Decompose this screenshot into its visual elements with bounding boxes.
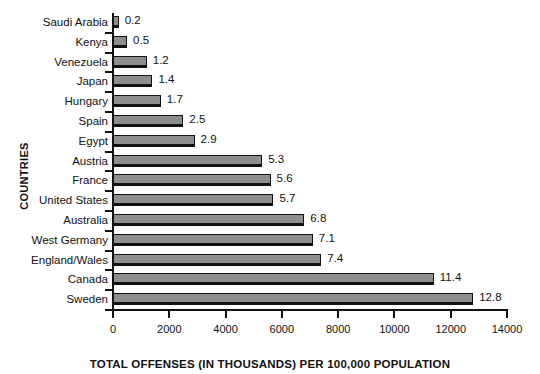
y-axis-tick [105, 151, 113, 153]
bar-value-label: 5.6 [277, 172, 293, 184]
y-axis-tick [105, 131, 113, 133]
bar-value-label: 1.2 [153, 54, 169, 66]
x-axis-title: TOTAL OFFENSES (IN THOUSANDS) PER 100,00… [0, 358, 540, 370]
x-axis-tick [168, 310, 170, 318]
category-label: Canada [68, 270, 108, 290]
y-axis-tick [105, 71, 113, 73]
bar-row: 0.2 [113, 13, 507, 33]
y-axis-tick [105, 230, 113, 232]
bar-value-label: 2.5 [189, 113, 205, 125]
category-label: Sweden [66, 290, 108, 310]
category-label: France [72, 171, 108, 191]
plot-area: 0.20.51.21.41.72.52.95.35.65.76.87.17.41… [113, 13, 507, 310]
category-label: Australia [63, 211, 108, 231]
bar [113, 214, 304, 226]
bar [113, 155, 262, 167]
bar-value-label: 1.7 [167, 93, 183, 105]
y-axis-tick [105, 52, 113, 54]
x-axis-tick [112, 310, 114, 318]
bar [113, 273, 434, 285]
bar [113, 56, 147, 68]
y-axis-tick [105, 289, 113, 291]
x-axis-tick [393, 310, 395, 318]
bar [113, 36, 127, 48]
bar-value-label: 5.7 [279, 192, 295, 204]
bar [113, 95, 161, 107]
bar-row: 7.1 [113, 231, 507, 251]
bar-row: 2.9 [113, 132, 507, 152]
category-label: Spain [79, 112, 108, 132]
x-axis-tick [337, 310, 339, 318]
category-label: Saudi Arabia [43, 13, 108, 33]
x-axis-tick [225, 310, 227, 318]
bar [113, 16, 119, 28]
bar-row: 5.6 [113, 171, 507, 191]
x-axis-tick-label: 6000 [270, 323, 294, 335]
bar-value-label: 7.1 [319, 232, 335, 244]
bar-row: 5.7 [113, 191, 507, 211]
bar-row: 5.3 [113, 152, 507, 172]
x-axis-tick [506, 310, 508, 318]
bar [113, 234, 313, 246]
bar-row: 7.4 [113, 251, 507, 271]
x-axis-tick-label: 12000 [435, 323, 466, 335]
bar-value-label: 11.4 [440, 271, 462, 283]
bar-row: 0.5 [113, 33, 507, 53]
x-axis-tick-label: 14000 [492, 323, 523, 335]
category-label: West Germany [32, 231, 108, 251]
x-axis-tick-label: 10000 [379, 323, 410, 335]
bar [113, 194, 273, 206]
bar-value-label: 1.4 [158, 73, 174, 85]
bar [113, 115, 183, 127]
y-axis-tick [105, 210, 113, 212]
x-axis-tick [281, 310, 283, 318]
bar [113, 254, 321, 266]
bar-value-label: 2.9 [201, 133, 217, 145]
bar [113, 174, 271, 186]
bar-row: 1.2 [113, 53, 507, 73]
bar-value-label: 5.3 [268, 153, 284, 165]
category-label: England/Wales [31, 251, 108, 271]
category-label: Austria [72, 152, 108, 172]
category-label: Kenya [75, 33, 108, 53]
bar-row: 6.8 [113, 211, 507, 231]
bar [113, 135, 195, 147]
bar-chart: COUNTRIES Saudi ArabiaKenyaVenezuelaJapa… [0, 0, 540, 374]
bar [113, 293, 473, 305]
x-axis-tick [450, 310, 452, 318]
bar-row: 12.8 [113, 290, 507, 310]
y-axis-tick [105, 170, 113, 172]
bar-value-label: 7.4 [327, 252, 343, 264]
bar-row: 11.4 [113, 270, 507, 290]
x-axis-tick-label: 4000 [213, 323, 237, 335]
bar-value-label: 0.2 [125, 14, 141, 26]
y-axis-tick [105, 111, 113, 113]
category-label: Japan [77, 72, 108, 92]
y-axis-tick [105, 91, 113, 93]
y-axis-tick [105, 269, 113, 271]
y-axis-tick [105, 190, 113, 192]
x-axis-tick-label: 8000 [326, 323, 350, 335]
x-axis-tick-label: 2000 [157, 323, 181, 335]
y-axis-tick [105, 32, 113, 34]
category-label: Hungary [65, 92, 108, 112]
bar [113, 75, 152, 87]
bar-value-label: 6.8 [310, 212, 326, 224]
category-label-column: Saudi ArabiaKenyaVenezuelaJapanHungarySp… [12, 13, 108, 310]
x-axis-tick-label: 0 [110, 323, 116, 335]
bar-value-label: 12.8 [479, 291, 501, 303]
category-label: Venezuela [54, 53, 108, 73]
category-label: Egypt [79, 132, 108, 152]
y-axis-tick [105, 250, 113, 252]
bar-value-label: 0.5 [133, 34, 149, 46]
category-label: United States [39, 191, 108, 211]
bar-row: 1.4 [113, 72, 507, 92]
bar-row: 1.7 [113, 92, 507, 112]
bar-row: 2.5 [113, 112, 507, 132]
